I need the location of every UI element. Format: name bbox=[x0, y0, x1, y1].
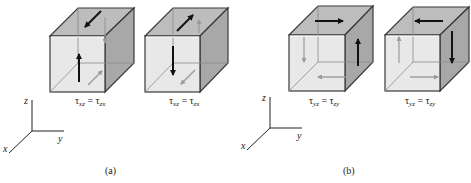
axis-label-x: x bbox=[2, 143, 8, 154]
cube-b2-label: τyz = τzy bbox=[405, 95, 436, 108]
shear-stress-diagram: τxz = τzx τxz = τzx z y x (a) bbox=[0, 0, 471, 183]
cube-b1-label: τyz = τzy bbox=[309, 95, 340, 108]
axis-label-y: y bbox=[296, 130, 302, 141]
axes-triad-b bbox=[247, 97, 302, 150]
cube-b2: τyz = τzy bbox=[385, 7, 469, 108]
axis-label-x: x bbox=[240, 140, 246, 151]
panel-caption-b: (b) bbox=[343, 165, 355, 177]
axes-triad-a bbox=[9, 100, 64, 153]
cube-a1-label: τxz = τzx bbox=[75, 95, 106, 108]
cube-a2: τxz = τzx bbox=[145, 8, 228, 108]
axis-label-z: z bbox=[261, 92, 266, 103]
cube-a2-label: τxz = τzx bbox=[169, 95, 200, 108]
cube-a1: τxz = τzx bbox=[50, 8, 134, 108]
cube-b1: τyz = τzy bbox=[289, 6, 373, 108]
axis-label-y: y bbox=[57, 133, 63, 144]
panel-caption-a: (a) bbox=[105, 165, 116, 177]
axis-label-z: z bbox=[23, 95, 28, 106]
